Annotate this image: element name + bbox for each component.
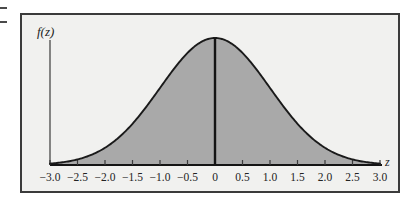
x-tick-label-3: −1.5 [122,171,143,183]
normal-distribution-figure: f(z) z −3.0−2.5−2.0−1.5−1.0−0.500.51.01.… [0,0,420,207]
x-tick-label-10: 2.0 [318,171,332,183]
x-tick-label-8: 1.0 [263,171,277,183]
x-tick-label-4: −1.0 [150,171,171,183]
x-axis-label: z [385,155,390,170]
x-tick-label-5: −0.5 [177,171,198,183]
x-tick-label-6: 0 [212,171,218,183]
scan-artifact-mark [0,7,7,9]
x-tick-label-9: 1.5 [290,171,304,183]
x-tick-label-7: 0.5 [235,171,249,183]
x-tick-label-12: 3.0 [373,171,387,183]
x-tick-label-0: −3.0 [40,171,61,183]
plot-frame-border [20,13,400,193]
y-axis-label: f(z) [37,24,54,40]
x-tick-label-1: −2.5 [67,171,88,183]
scan-artifact-mark [0,21,7,23]
x-tick-label-2: −2.0 [95,171,116,183]
x-tick-label-11: 2.5 [345,171,359,183]
